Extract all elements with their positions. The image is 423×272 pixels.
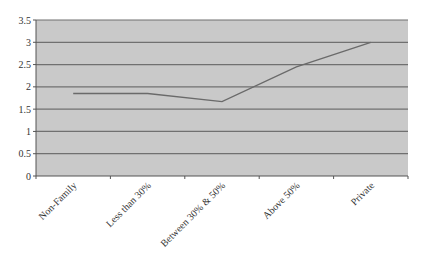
x-axis: Non-FamilyLess than 30%Between 30% & 50%…: [36, 176, 408, 249]
x-tick-label: Less than 30%: [104, 180, 153, 229]
line-chart: 00.511.522.533.5 Non-FamilyLess than 30%…: [0, 0, 423, 272]
y-tick-label: 1: [26, 126, 31, 137]
y-tick-label: 1.5: [19, 104, 32, 115]
y-tick-label: 3.5: [19, 15, 32, 26]
x-tick-label: Non-Family: [36, 180, 78, 222]
y-tick-label: 3: [26, 37, 31, 48]
x-tick-label: Above 50%: [260, 180, 301, 221]
y-tick-label: 2: [26, 81, 31, 92]
y-axis: 00.511.522.533.5: [19, 15, 37, 182]
y-tick-label: 0.5: [19, 148, 32, 159]
y-tick-label: 0: [26, 171, 31, 182]
plot-area: [36, 20, 408, 176]
x-tick-label: Between 30% & 50%: [158, 180, 227, 249]
x-tick-label: Private: [348, 179, 376, 207]
y-tick-label: 2.5: [19, 59, 32, 70]
